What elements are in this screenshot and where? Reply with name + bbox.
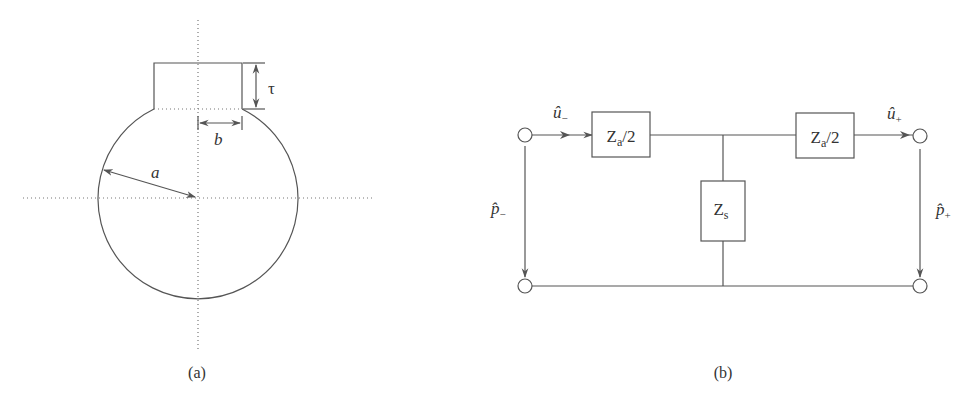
- b-dimension: [198, 116, 242, 130]
- terminal-bottom-left: [518, 279, 532, 293]
- p-minus-label: p̂−: [490, 199, 506, 220]
- sphere-outline: [98, 109, 298, 299]
- neck-outline: [154, 63, 242, 109]
- u-plus-label: û+: [887, 104, 902, 125]
- tau-dimension: [243, 63, 265, 109]
- caption-a: (a): [188, 364, 206, 382]
- caption-b: (b): [714, 364, 733, 382]
- figure-canvas: τ b a (a) Za/2 Za/2 Zs: [0, 0, 974, 400]
- terminal-bottom-right: [913, 279, 927, 293]
- p-plus-label: p̂+: [935, 200, 951, 221]
- tau-label: τ: [268, 79, 275, 98]
- terminal-top-left: [518, 128, 532, 142]
- terminal-top-right: [913, 129, 927, 143]
- b-label: b: [214, 130, 223, 149]
- figure-a-resonator: τ b a (a): [23, 20, 372, 382]
- radius-arrow: [104, 170, 195, 197]
- a-label: a: [151, 163, 160, 182]
- figure-b-circuit: Za/2 Za/2 Zs û− û+ p̂− p̂+ (b): [490, 103, 951, 382]
- u-minus-label: û−: [553, 103, 568, 124]
